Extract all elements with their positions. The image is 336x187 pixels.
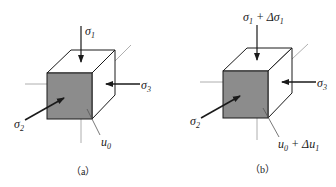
sigma2-label: σ2 — [190, 114, 200, 130]
axis-line-back-right — [292, 44, 308, 59]
diagram-canvas: σ1 σ3 σ2 u0 （a） σ1 + Δσ1 σ3 σ2 u0 + Δu1 … — [0, 0, 336, 187]
panel-a: σ1 σ3 σ2 u0 （a） — [14, 24, 151, 177]
panel-b: σ1 + Δσ1 σ3 σ2 u0 + Δu1 （b） — [190, 10, 327, 175]
caption-a: （a） — [71, 166, 95, 177]
pore-pressure-label: u0 — [101, 135, 111, 151]
cube-front-face — [223, 71, 268, 118]
sigma1-label: σ1 + Δσ1 — [243, 10, 284, 26]
sigma3-label: σ3 — [317, 76, 327, 92]
sigma3-label: σ3 — [141, 78, 151, 94]
caption-b: （b） — [250, 164, 275, 175]
pore-pressure-label: u0 + Δu1 — [278, 137, 319, 153]
sigma1-label: σ1 — [85, 24, 95, 40]
cube-front-face — [47, 73, 92, 119]
sigma2-label: σ2 — [14, 117, 24, 133]
axis-line-back-right — [115, 45, 131, 61]
